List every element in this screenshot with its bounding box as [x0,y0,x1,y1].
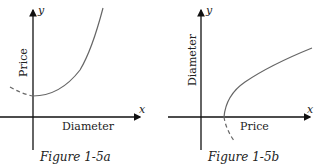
figure-a-x-symbol: x [139,103,145,116]
figure-b-x-symbol: x [307,103,313,116]
figure-b-caption: Figure 1-5b [208,150,279,164]
figure-a-x-label: Diameter [62,120,114,133]
figure-b-x-label: Price [240,120,269,133]
figure-b-y-symbol: y [206,4,212,17]
figure-a-dashed-extension [10,87,33,96]
figure-a-curve [33,8,103,96]
figure-a-y-label: Price [17,48,30,77]
figure-b-curve [224,48,312,117]
figure-canvas [0,0,314,165]
figure-b-dashed-extension [224,117,235,142]
figure-a-y-symbol: y [38,4,44,17]
figure-a-caption: Figure 1-5a [40,150,111,164]
figure-b-y-label: Diameter [186,34,199,86]
